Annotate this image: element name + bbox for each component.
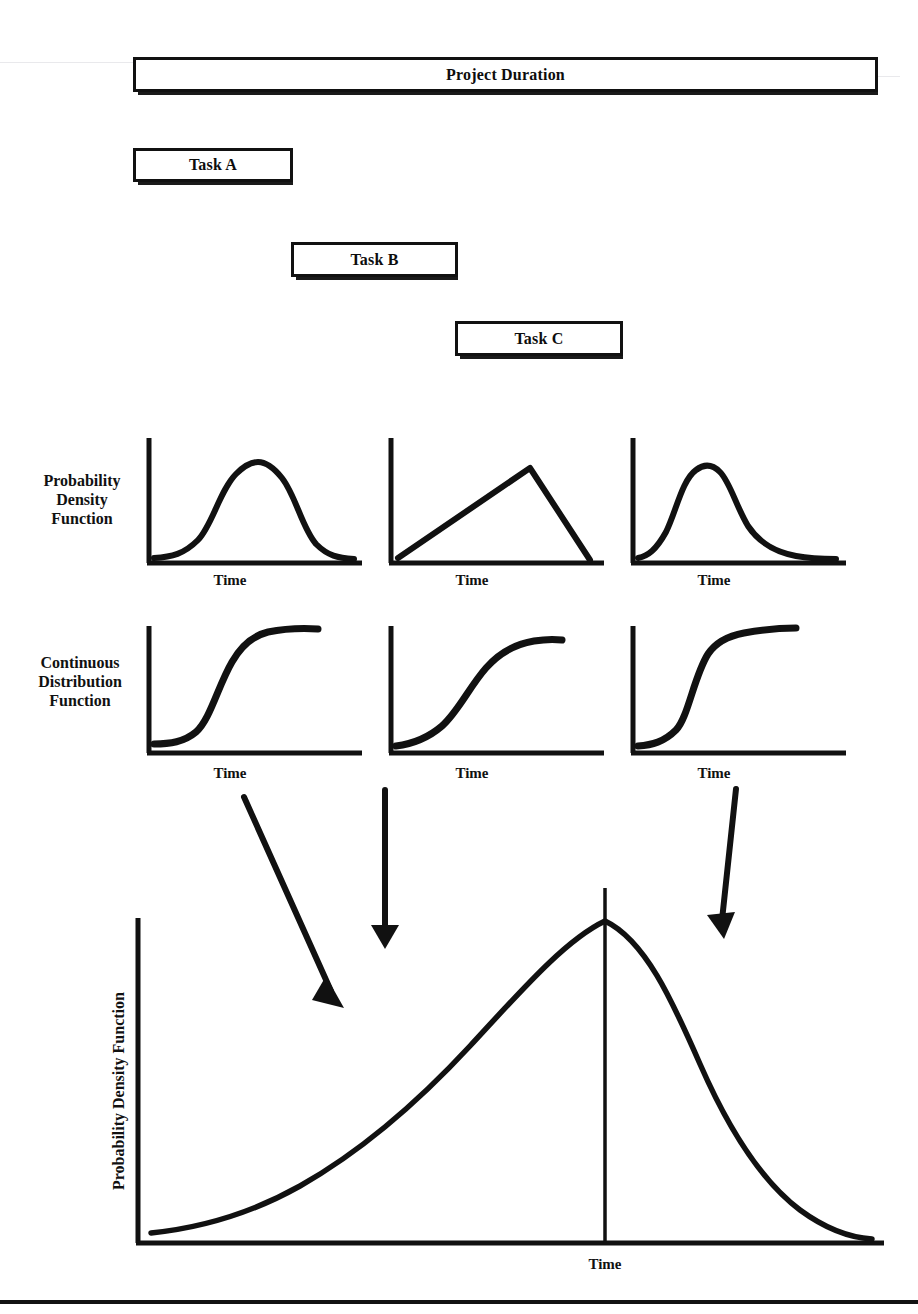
figure-page: Project Duration Task A Task B Task C Pr… [0, 0, 918, 1314]
main-y-axis-title: Probability Density Function [110, 992, 128, 1190]
main-pdf-curve [151, 921, 872, 1239]
page-footer-rule [0, 1300, 918, 1304]
main-chart-project-duration-pdf [0, 0, 918, 1314]
axis-caption-main-chart: Time [555, 1256, 655, 1273]
